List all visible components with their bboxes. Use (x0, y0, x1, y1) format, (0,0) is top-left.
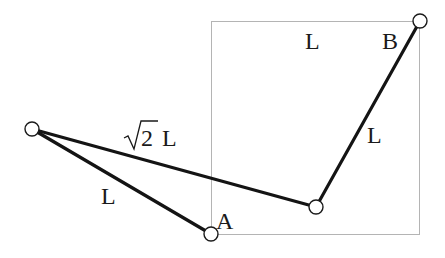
label-top-l: L (305, 28, 320, 54)
middle-joint (309, 200, 323, 214)
rod-left-to-a (32, 129, 211, 234)
label-left-rod-l: L (101, 183, 116, 209)
label-right-rod-l: L (367, 122, 382, 148)
linkage-diagram: L B L L A 2 L (0, 0, 445, 258)
label-diagonal-suffix: L (162, 125, 177, 151)
label-point-a: A (216, 208, 234, 234)
label-point-b: B (382, 28, 398, 54)
label-radicand: 2 (141, 125, 153, 151)
label-diagonal-sqrt2-l: 2 L (124, 121, 177, 151)
left-joint (25, 122, 39, 136)
point-b-joint (413, 14, 427, 28)
rod-middle-to-b (316, 21, 420, 207)
